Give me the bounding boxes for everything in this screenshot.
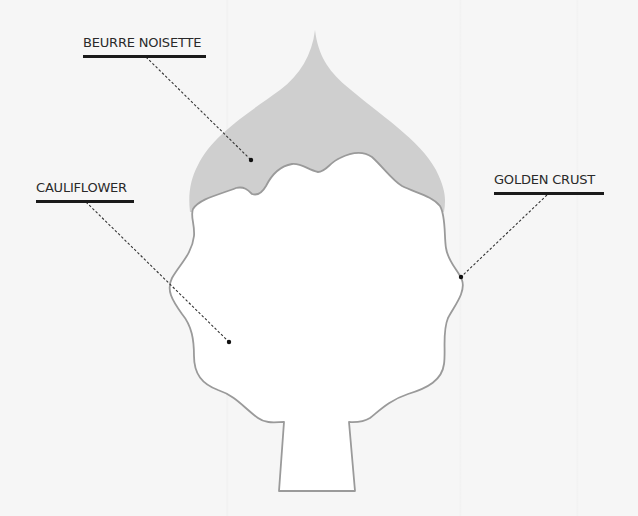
label-golden-crust: GOLDEN CRUST [494, 172, 604, 195]
label-beurre-noisette-text: BEURRE NOISETTE [83, 35, 206, 58]
label-cauliflower-text: CAULIFLOWER [36, 180, 134, 203]
cauliflower-diagram [0, 0, 638, 516]
leader-dot-golden-crust [459, 275, 463, 279]
leader-dot-beurre-noisette [249, 158, 253, 162]
label-beurre-noisette: BEURRE NOISETTE [83, 35, 206, 58]
label-golden-crust-text: GOLDEN CRUST [494, 172, 604, 195]
leader-line-golden-crust [461, 195, 547, 277]
leader-dot-cauliflower [227, 340, 231, 344]
leader-line-beurre-noisette [146, 57, 251, 160]
label-cauliflower: CAULIFLOWER [36, 180, 134, 203]
cauliflower-body-shape [170, 153, 463, 491]
